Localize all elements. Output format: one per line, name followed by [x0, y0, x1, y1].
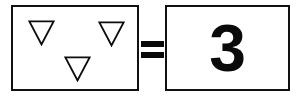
quantity-panel: [11, 5, 139, 91]
triangle-down-icon: [64, 56, 91, 82]
equals-sign-icon: [141, 41, 164, 59]
equals-bar-bottom: [141, 52, 164, 58]
numeral-panel: 3: [165, 5, 290, 91]
triangle-down-icon: [28, 20, 55, 46]
counting-equation-figure: 3: [0, 0, 300, 97]
equals-bar-top: [141, 41, 164, 47]
triangle-down-icon: [98, 21, 125, 47]
numeral-value: 3: [167, 7, 288, 89]
